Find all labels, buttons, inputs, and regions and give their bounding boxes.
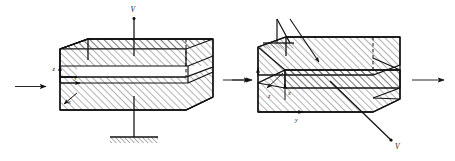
z-axis-label: z — [52, 65, 56, 72]
z-axis-label-deformed: z — [267, 92, 271, 99]
y-axis-label: y — [73, 74, 77, 81]
support-base-hatch — [263, 43, 294, 49]
x-axis-label-deformed: x — [287, 89, 291, 96]
load-tip-dot — [389, 138, 392, 141]
shear-interface-band — [285, 70, 400, 88]
ground-hatch — [110, 137, 158, 143]
load-origin-dot — [133, 17, 136, 20]
figure-svg: z y x V — [0, 0, 455, 161]
y-axis-label-deformed: y — [294, 116, 298, 123]
figure-root: z y x V — [0, 0, 455, 161]
x-axis-label: x — [67, 98, 71, 105]
